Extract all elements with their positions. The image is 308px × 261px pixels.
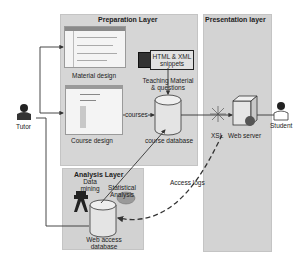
access-logs-label: Access logs	[170, 179, 205, 186]
course-database-icon	[155, 95, 181, 135]
tutor-label: Tutor	[16, 123, 31, 130]
web-access-database-label: Web access database	[86, 236, 122, 250]
web-access-database-icon	[90, 200, 116, 237]
statistical-analysis-label: Statistical Analysis	[103, 184, 141, 198]
web-server-label: Web server	[228, 132, 261, 139]
course-database-label: course database	[145, 137, 193, 144]
data-mining-telescope-icon	[74, 191, 88, 212]
courses-edge-label: courses	[125, 111, 148, 118]
student-label: Student	[270, 122, 292, 129]
tutor-person-icon	[17, 104, 31, 120]
web-server-icon	[233, 96, 257, 126]
xsl-label: XSL	[211, 132, 223, 139]
diagram-graphics	[0, 0, 308, 261]
xsl-spark-icon	[210, 106, 226, 122]
access-logs-edge	[118, 135, 222, 220]
student-person-icon	[274, 102, 288, 120]
data-mining-label: Data mining	[78, 178, 102, 192]
